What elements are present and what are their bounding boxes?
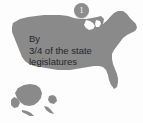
caption-line-2: 3/4 of the state <box>29 45 121 57</box>
hawaii-shape <box>48 95 57 104</box>
us-map-figure: 1 By 3/4 of the state legislatures <box>0 0 143 123</box>
caption-line-3: legislatures <box>29 56 121 68</box>
step-number-badge: 1 <box>74 3 89 18</box>
hawaii-islets <box>44 106 54 114</box>
step-number-label: 1 <box>79 6 84 15</box>
caption-line-1: By <box>29 33 121 45</box>
gulf-coast <box>62 70 76 79</box>
map-caption: By 3/4 of the state legislatures <box>29 33 121 68</box>
aleutian-islands <box>22 110 34 116</box>
